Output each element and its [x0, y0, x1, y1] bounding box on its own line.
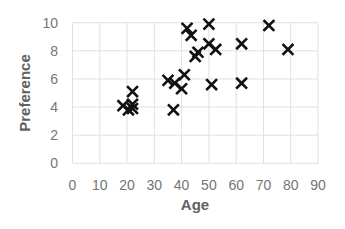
scatter-chart: 0246810 0102030405060708090 Age Preferen… — [0, 0, 345, 229]
x-marker-icon — [211, 45, 220, 54]
y-tick-label: 4 — [50, 99, 58, 115]
x-axis-ticks: 0102030405060708090 — [69, 177, 326, 193]
y-tick-label: 8 — [50, 43, 58, 59]
grid-lines — [73, 23, 319, 164]
x-marker-icon — [237, 79, 246, 88]
x-axis-label: Age — [181, 196, 209, 213]
data-markers — [118, 20, 292, 115]
x-tick-label: 40 — [174, 177, 190, 193]
x-tick-label: 10 — [92, 177, 108, 193]
y-tick-label: 0 — [50, 155, 58, 171]
y-tick-label: 6 — [50, 71, 58, 87]
y-axis-ticks: 0246810 — [42, 15, 58, 172]
y-tick-label: 2 — [50, 127, 58, 143]
x-tick-label: 60 — [228, 177, 244, 193]
y-tick-label: 10 — [42, 15, 58, 31]
x-tick-label: 20 — [119, 177, 135, 193]
x-tick-label: 70 — [256, 177, 272, 193]
y-axis-label: Preference — [16, 54, 33, 132]
x-tick-label: 30 — [147, 177, 163, 193]
x-tick-label: 50 — [201, 177, 217, 193]
x-marker-icon — [128, 87, 137, 96]
x-marker-icon — [237, 39, 246, 48]
x-tick-label: 80 — [283, 177, 299, 193]
x-tick-label: 90 — [310, 177, 326, 193]
x-tick-label: 0 — [69, 177, 77, 193]
